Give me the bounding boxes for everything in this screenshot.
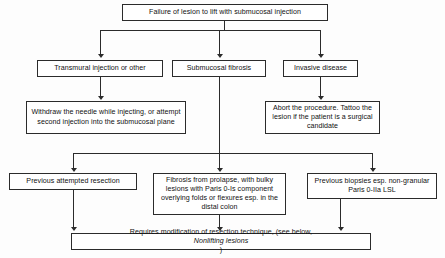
node-abort-procedure-label: Abort the procedure. Tattoo the lesion i…: [269, 104, 376, 132]
node-previous-attempted-resection-label: Previous attempted resection: [13, 177, 133, 186]
node-outcome-tail-text: ): [75, 246, 367, 255]
arrowhead-root-to-fibrosis: [217, 54, 223, 58]
flowchart-canvas: Failure of lesion to lift with submucosa…: [0, 0, 445, 258]
node-withdraw-needle-label: Withdraw the needle while injecting, or …: [30, 108, 182, 126]
connector-fibrosis-to-prolapse: [219, 153, 220, 169]
node-submucosal-fibrosis-label: Submucosal fibrosis: [176, 64, 262, 73]
arrowhead-fibrosis-to-prev-resection: [71, 168, 77, 172]
arrowhead-transmural-to-withdraw: [98, 96, 104, 100]
node-outcome-lead-text: Requires modification of resection techn…: [75, 228, 367, 237]
connector-root-to-fibrosis: [219, 30, 220, 55]
arrowhead-fibrosis-to-prolapse: [217, 168, 223, 172]
connector-root-to-invasive: [320, 30, 321, 55]
node-previous-biopsies-label: Previous biopsies esp. non-granular Pari…: [311, 177, 433, 195]
connector-prev-resection-to-outcome: [73, 190, 74, 228]
node-root-label: Failure of lesion to lift with submucosa…: [126, 8, 324, 17]
connector-root-to-transmural: [100, 30, 101, 55]
connector-invasive-to-abort: [320, 77, 321, 97]
node-submucosal-fibrosis: Submucosal fibrosis: [172, 60, 266, 77]
connector-fibrosis-spine: [219, 77, 220, 153]
connector-fibrosis-fanbar: [73, 153, 373, 154]
connector-transmural-to-withdraw: [100, 77, 101, 97]
node-fibrosis-from-prolapse-label: Fibrosis from prolapse, with bulky lesio…: [157, 176, 282, 213]
connector-root-fanbar: [100, 30, 320, 31]
node-root: Failure of lesion to lift with submucosa…: [122, 4, 328, 21]
node-outcome: Requires modification of resection techn…: [71, 233, 371, 250]
node-outcome-italic-text: Nonlifting lesions: [75, 237, 367, 246]
node-withdraw-needle: Withdraw the needle while injecting, or …: [26, 101, 186, 134]
node-outcome-label: Requires modification of resection techn…: [75, 228, 367, 256]
node-invasive-disease-label: Invasive disease: [287, 64, 354, 73]
connector-fibrosis-to-prev-resection: [73, 153, 74, 169]
node-previous-biopsies: Previous biopsies esp. non-granular Pari…: [307, 173, 437, 199]
arrowhead-root-to-transmural: [98, 54, 104, 58]
connector-fibrosis-to-prev-biopsies: [372, 153, 373, 169]
node-transmural-label: Transmural injection or other: [41, 64, 159, 73]
arrowhead-invasive-to-abort: [318, 96, 324, 100]
arrowhead-root-to-invasive: [318, 54, 324, 58]
node-previous-attempted-resection: Previous attempted resection: [9, 173, 137, 190]
node-transmural: Transmural injection or other: [37, 60, 163, 77]
arrowhead-fibrosis-to-prev-biopsies: [370, 168, 376, 172]
node-invasive-disease: Invasive disease: [283, 60, 358, 77]
node-abort-procedure: Abort the procedure. Tattoo the lesion i…: [265, 101, 380, 134]
connector-prev-biopsies-to-outcome: [340, 199, 341, 228]
node-fibrosis-from-prolapse: Fibrosis from prolapse, with bulky lesio…: [153, 173, 286, 215]
connector-root-stem: [224, 21, 225, 30]
